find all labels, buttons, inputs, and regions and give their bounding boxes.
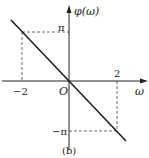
- x-axis-label: ω: [135, 85, 144, 98]
- tick-y-neg: −π: [52, 126, 67, 137]
- x-axis-arrow-icon: [140, 79, 148, 84]
- phase-plot: φ(ω) π −π −2 2 O ω (b): [0, 0, 149, 158]
- tick-x-pos: 2: [114, 68, 120, 79]
- y-axis-arrow-icon: [67, 5, 72, 13]
- tick-y-pos: π: [58, 22, 65, 33]
- caption: (b): [62, 145, 76, 156]
- origin-label: O: [59, 85, 68, 98]
- y-axis-label: φ(ω): [74, 5, 99, 18]
- tick-x-neg: −2: [13, 86, 28, 97]
